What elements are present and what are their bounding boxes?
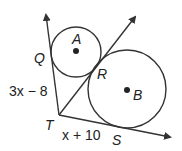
center-a-dot [73, 48, 79, 54]
label-b: B [133, 87, 142, 103]
label-a: A [71, 31, 81, 47]
label-t: T [45, 117, 55, 133]
label-q: Q [34, 50, 45, 66]
label-s: S [112, 132, 122, 148]
label-segment-ts: x + 10 [62, 127, 101, 143]
label-segment-tq: 3x − 8 [9, 83, 48, 99]
ray-tq [46, 15, 59, 115]
label-r: R [97, 66, 107, 82]
center-b-dot [124, 87, 130, 93]
geometry-diagram: A B Q R T S 3x − 8 x + 10 [0, 0, 182, 151]
